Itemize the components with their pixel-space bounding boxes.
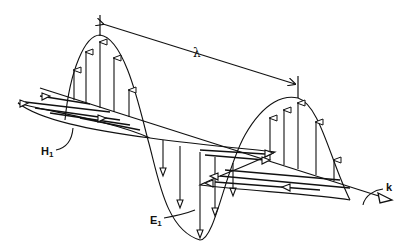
electric-field-label: E1 [150,215,162,228]
magnetic-field-subscript: 1 [49,150,53,159]
electric-field-subscript: 1 [157,219,161,228]
magnetic-field-symbol: H [41,145,49,157]
magnetic-field-wave [18,93,350,200]
wavelength-label: λ [193,47,201,59]
em-wave-diagram [0,0,405,244]
propagation-vector-label: k [386,182,392,193]
magnetic-field-label: H1 [41,146,53,159]
electric-field-wave [65,35,350,240]
